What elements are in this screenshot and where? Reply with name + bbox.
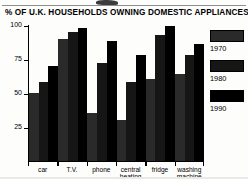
bar-1970 <box>146 79 156 161</box>
bar-group <box>117 25 146 161</box>
x-tick-mark <box>87 162 88 166</box>
bar-1970 <box>58 39 68 161</box>
y-tick-label: 100 <box>10 21 22 28</box>
bar-group <box>29 25 58 161</box>
bar-1980 <box>39 82 49 161</box>
legend-item[interactable]: 1990 <box>210 90 246 114</box>
legend-label-1980: 1980 <box>210 72 246 84</box>
bar-1990 <box>165 26 175 161</box>
legend-item[interactable]: 1970 <box>210 30 246 54</box>
x-axis-label-text: car <box>38 166 47 173</box>
bar-1980 <box>155 35 165 161</box>
plot-area <box>28 25 204 162</box>
y-tick-25: 25 <box>0 128 28 129</box>
bar-group <box>175 25 204 161</box>
legend-item[interactable]: 1980 <box>210 60 246 84</box>
header-divider <box>2 5 246 6</box>
x-axis-label-text: phone <box>92 166 110 173</box>
x-tick-mark <box>145 162 146 166</box>
bar-1980 <box>68 32 78 161</box>
chart-title: % OF U.K. HOUSEHOLDS OWNING DOMESTIC APP… <box>5 8 245 18</box>
chart-figure: % OF U.K. HOUSEHOLDS OWNING DOMESTIC APP… <box>0 0 248 179</box>
bar-1970 <box>117 120 127 161</box>
legend-label-1970: 1970 <box>210 42 246 54</box>
y-tick-label: 25 <box>14 123 22 130</box>
bar-groups <box>29 25 204 161</box>
legend-label-1990: 1990 <box>210 102 246 114</box>
bar-1990 <box>78 28 88 161</box>
bar-1990 <box>107 41 117 161</box>
bar-1980 <box>97 63 107 161</box>
y-tick-label: 75 <box>14 55 22 62</box>
x-tick-mark <box>116 162 117 166</box>
bar-1990 <box>48 66 58 161</box>
x-tick-mark <box>28 162 29 166</box>
bar-1990 <box>136 55 146 161</box>
legend-swatch-1980 <box>210 60 244 72</box>
chart-legend: 1970 1980 1990 <box>210 30 246 120</box>
bar-1970 <box>29 93 39 161</box>
scan-artifact <box>96 0 118 5</box>
legend-swatch-1990 <box>210 90 244 102</box>
y-tick-100: 100 <box>0 26 28 27</box>
x-tick-mark <box>175 162 176 166</box>
bar-1990 <box>194 44 204 161</box>
bar-group <box>87 25 116 161</box>
y-tick-50: 50 <box>0 94 28 95</box>
legend-swatch-1970 <box>210 30 244 42</box>
bar-group <box>58 25 87 161</box>
bar-1980 <box>126 82 136 161</box>
x-axis-label-text: fridge <box>152 166 169 173</box>
bar-1970 <box>175 74 185 161</box>
y-tick-75: 75 <box>0 60 28 61</box>
y-axis: 100 75 50 25 <box>0 0 28 179</box>
y-tick-label: 50 <box>14 89 22 96</box>
page-edge <box>0 177 248 179</box>
bar-group <box>146 25 175 161</box>
x-axis-label-text: T.V. <box>67 166 78 173</box>
bar-1970 <box>87 113 97 161</box>
x-tick-mark-end <box>203 162 204 166</box>
bar-1980 <box>185 55 195 161</box>
x-tick-mark <box>57 162 58 166</box>
